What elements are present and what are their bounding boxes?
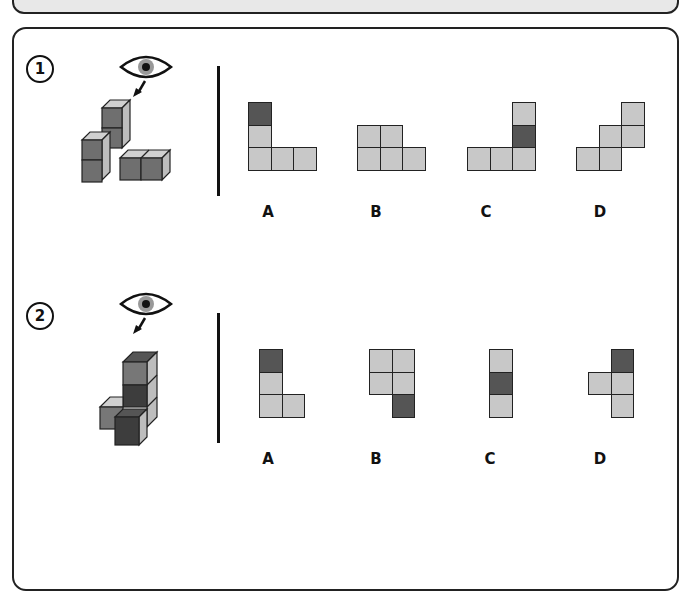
question-number-1: 1 bbox=[26, 55, 54, 83]
grid-cell-light bbox=[248, 147, 272, 171]
cube-structure-1 bbox=[80, 98, 185, 198]
grid-cell-light bbox=[599, 147, 623, 171]
grid-cell-light bbox=[271, 147, 295, 171]
option-label-d[interactable]: D bbox=[585, 450, 615, 468]
eye-icon bbox=[118, 290, 174, 338]
grid-cell-dark bbox=[392, 394, 416, 418]
grid-cell-light bbox=[489, 349, 513, 373]
grid-cell-light bbox=[611, 394, 635, 418]
divider-1 bbox=[217, 66, 220, 196]
option-label-c[interactable]: C bbox=[471, 203, 501, 221]
option-label-b[interactable]: B bbox=[361, 450, 391, 468]
option-label-d[interactable]: D bbox=[585, 203, 615, 221]
grid-cell-light bbox=[259, 394, 283, 418]
grid-cell-light bbox=[490, 147, 514, 171]
grid-cell-dark bbox=[259, 349, 283, 373]
option-label-c[interactable]: C bbox=[475, 450, 505, 468]
grid-cell-light bbox=[512, 147, 536, 171]
grid-cell-light bbox=[576, 147, 600, 171]
grid-cell-dark bbox=[489, 372, 513, 396]
grid-cell-light bbox=[599, 125, 623, 149]
grid-cell-light bbox=[293, 147, 317, 171]
grid-cell-dark bbox=[512, 125, 536, 149]
grid-cell-light bbox=[380, 147, 404, 171]
grid-cell-light bbox=[489, 394, 513, 418]
grid-cell-light bbox=[259, 372, 283, 396]
top-panel-edge bbox=[12, 0, 679, 14]
grid-cell-light bbox=[369, 349, 393, 373]
grid-cell-light bbox=[621, 102, 645, 126]
grid-cell-light bbox=[611, 372, 635, 396]
grid-cell-light bbox=[467, 147, 491, 171]
grid-cell-light bbox=[357, 125, 381, 149]
option-label-a[interactable]: A bbox=[253, 450, 283, 468]
grid-cell-light bbox=[402, 147, 426, 171]
grid-cell-dark bbox=[611, 349, 635, 373]
grid-cell-light bbox=[621, 125, 645, 149]
grid-cell-light bbox=[380, 125, 404, 149]
option-label-b[interactable]: B bbox=[361, 203, 391, 221]
question-number-2: 2 bbox=[26, 302, 54, 330]
grid-cell-light bbox=[282, 394, 306, 418]
grid-cell-light bbox=[369, 372, 393, 396]
cube-structure-2 bbox=[95, 345, 170, 450]
grid-cell-light bbox=[357, 147, 381, 171]
eye-icon bbox=[118, 53, 174, 101]
grid-cell-light bbox=[392, 349, 416, 373]
grid-cell-light bbox=[392, 372, 416, 396]
grid-cell-light bbox=[248, 125, 272, 149]
grid-cell-light bbox=[512, 102, 536, 126]
option-label-a[interactable]: A bbox=[253, 203, 283, 221]
grid-cell-light bbox=[588, 372, 612, 396]
divider-2 bbox=[217, 313, 220, 443]
grid-cell-dark bbox=[248, 102, 272, 126]
